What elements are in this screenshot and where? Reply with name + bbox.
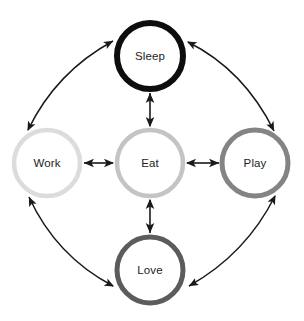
node-play[interactable]: Play: [222, 130, 288, 196]
node-love[interactable]: Love: [117, 237, 183, 303]
node-love-label: Love: [137, 264, 162, 276]
node-eat[interactable]: Eat: [117, 130, 183, 196]
node-eat-label: Eat: [141, 157, 159, 169]
node-link-diagram: Sleep Work Eat Play Love: [0, 0, 304, 321]
node-work-label: Work: [33, 157, 60, 169]
node-work[interactable]: Work: [14, 130, 80, 196]
node-play-label: Play: [244, 157, 267, 169]
node-sleep-label: Sleep: [135, 50, 165, 62]
edge-work-sleep: [28, 41, 113, 130]
edge-love-work: [29, 197, 113, 286]
diagram-canvas: Sleep Work Eat Play Love: [0, 0, 304, 321]
edge-sleep-play: [188, 42, 274, 131]
edge-play-love: [189, 196, 275, 286]
node-sleep[interactable]: Sleep: [117, 23, 183, 89]
